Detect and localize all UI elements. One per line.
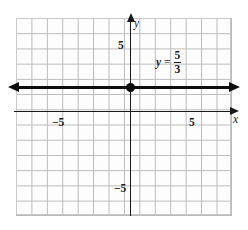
equation-left-hand-side: y bbox=[156, 57, 161, 69]
y-intercept-point bbox=[126, 83, 135, 92]
y-axis-tick-label-negative-5: −5 bbox=[114, 183, 126, 195]
y-axis-tick-label-positive-5: 5 bbox=[118, 40, 124, 52]
equation-fraction: 5 3 bbox=[174, 50, 182, 75]
x-axis-label: x bbox=[233, 114, 238, 126]
y-axis-label: y bbox=[134, 18, 139, 30]
x-axis-tick-label-positive-5: 5 bbox=[189, 117, 195, 129]
x-axis-line bbox=[14, 111, 234, 112]
equation-equals-sign: = bbox=[164, 57, 171, 69]
function-line-arrow-left-icon bbox=[8, 82, 19, 92]
equation-annotation: y = 5 3 bbox=[156, 50, 181, 75]
coordinate-plane-graph: x y −5 5 5 −5 y = 5 3 bbox=[0, 0, 248, 230]
function-line-y-equals-five-thirds bbox=[18, 86, 230, 89]
equation-fraction-denominator: 3 bbox=[174, 62, 182, 75]
equation-fraction-numerator: 5 bbox=[174, 50, 182, 62]
x-axis-tick-label-negative-5: −5 bbox=[52, 117, 64, 129]
y-axis-line bbox=[130, 16, 131, 216]
function-line-arrow-right-icon bbox=[229, 82, 240, 92]
